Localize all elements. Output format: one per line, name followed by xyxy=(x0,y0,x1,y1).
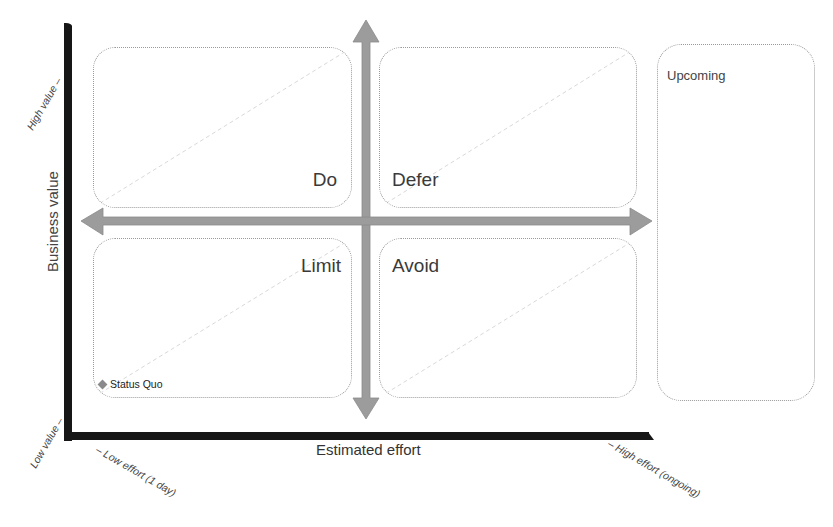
y-axis-title: Business value xyxy=(44,171,61,272)
x-axis-title: Estimated effort xyxy=(316,441,421,458)
